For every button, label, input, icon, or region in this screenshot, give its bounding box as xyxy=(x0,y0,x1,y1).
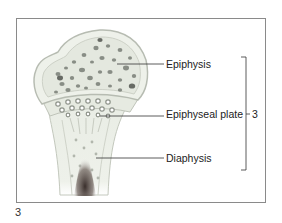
figure-number: 3 xyxy=(15,206,21,218)
label-epiphysis: Epiphysis xyxy=(166,58,211,70)
label-epiphyseal-plate: Epiphyseal plate xyxy=(166,108,243,120)
bracket-label: 3 xyxy=(252,108,258,120)
label-diaphysis: Diaphysis xyxy=(166,152,212,164)
